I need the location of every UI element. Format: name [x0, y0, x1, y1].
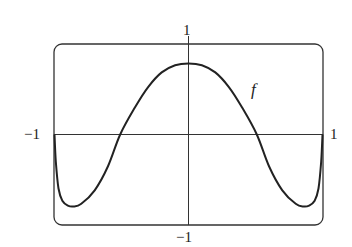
- y-axis-min-label: −1: [176, 230, 192, 245]
- x-axis-max-label: 1: [330, 127, 338, 142]
- y-axis-max-label: 1: [183, 23, 191, 38]
- function-label-f: f: [251, 81, 256, 98]
- plot-area: [0, 0, 352, 247]
- x-axis-min-label: −1: [24, 127, 40, 142]
